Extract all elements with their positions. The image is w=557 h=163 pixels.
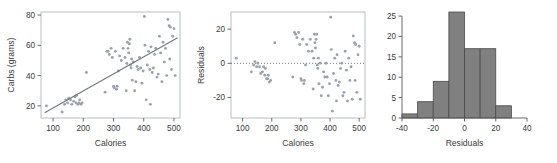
svg-text:100: 100 — [46, 124, 60, 133]
scatter-plot-panel: 20406080 100200300400500 Calories Carbs … — [0, 0, 190, 163]
svg-text:300: 300 — [294, 124, 308, 133]
svg-text:200: 200 — [76, 124, 90, 133]
plot-frame — [41, 12, 180, 118]
histogram-bars — [402, 12, 511, 118]
y-axis-label: Carbs (grams) — [6, 37, 16, 92]
svg-text:20: 20 — [26, 102, 36, 111]
svg-text:60: 60 — [26, 41, 36, 50]
svg-text:200: 200 — [265, 124, 279, 133]
residual-plot-svg: -20020 100200300400500 Calories Residual… — [185, 0, 375, 163]
svg-text:-20: -20 — [427, 124, 439, 133]
svg-text:-20: -20 — [213, 93, 225, 102]
svg-text:400: 400 — [323, 124, 337, 133]
y-axis-label: Residuals — [196, 46, 206, 84]
data-points — [45, 15, 177, 113]
histogram-svg: 0510152025 -40-2002040 Residuals — [372, 0, 557, 163]
svg-text:40: 40 — [26, 72, 36, 81]
svg-text:300: 300 — [107, 124, 121, 133]
svg-text:5: 5 — [391, 94, 396, 103]
y-axis: 0510152025 — [387, 12, 402, 123]
svg-text:25: 25 — [387, 12, 397, 21]
svg-text:0: 0 — [220, 59, 225, 68]
y-axis-ticks: -20020 — [213, 25, 231, 102]
svg-text:0: 0 — [462, 124, 467, 133]
x-axis-ticks: 100200300400500 — [46, 118, 181, 133]
x-axis-label: Calories — [95, 138, 127, 148]
three-panel-regression-figure: 20406080 100200300400500 Calories Carbs … — [0, 0, 557, 163]
svg-text:500: 500 — [352, 124, 366, 133]
svg-text:20: 20 — [216, 25, 226, 34]
svg-text:500: 500 — [167, 124, 181, 133]
svg-text:20: 20 — [387, 32, 397, 41]
svg-text:0: 0 — [391, 114, 396, 123]
svg-text:20: 20 — [491, 124, 501, 133]
scatter-plot-svg: 20406080 100200300400500 Calories Carbs … — [0, 0, 190, 163]
y-axis-ticks: 20406080 — [26, 11, 41, 111]
svg-text:40: 40 — [522, 124, 532, 133]
svg-text:-40: -40 — [396, 124, 408, 133]
data-points — [235, 16, 362, 113]
x-axis-label: Calories — [282, 138, 314, 148]
plot-frame — [231, 12, 365, 118]
x-axis: -40-2002040 — [396, 118, 532, 133]
svg-text:400: 400 — [137, 124, 151, 133]
svg-text:15: 15 — [387, 53, 397, 62]
svg-text:100: 100 — [236, 124, 250, 133]
x-axis-ticks: 100200300400500 — [236, 118, 367, 133]
residual-plot-panel: -20020 100200300400500 Calories Residual… — [185, 0, 375, 163]
histogram-panel: 0510152025 -40-2002040 Residuals — [372, 0, 557, 163]
svg-text:80: 80 — [26, 11, 36, 20]
x-axis-label: Residuals — [446, 138, 484, 148]
svg-text:10: 10 — [387, 73, 397, 82]
